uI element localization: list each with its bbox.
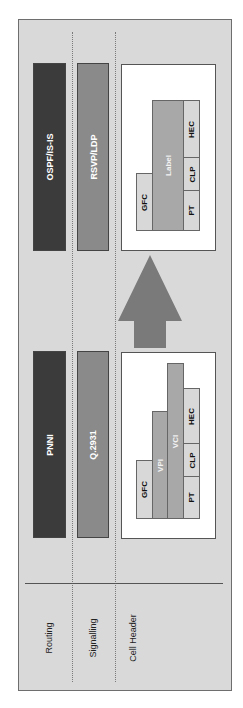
- up-arrow-icon: [116, 252, 186, 350]
- atm-field-pt: PT: [183, 476, 200, 519]
- column-divider-routing-signalling: [72, 32, 73, 682]
- atm-field-gfc: GFC: [136, 460, 153, 519]
- row-label-signalling: Signalling: [76, 590, 110, 685]
- row-label-routing: Routing: [33, 590, 65, 685]
- mpls-field-pt: PT: [183, 190, 200, 231]
- label-separator: [25, 583, 223, 584]
- row-label-cell-header: Cell Header: [118, 590, 148, 685]
- atm-field-vpi: VPI: [152, 411, 168, 519]
- atm-routing-bar: PNNI: [33, 351, 66, 538]
- mpls-field-clp: CLP: [183, 157, 200, 191]
- mpls-field-hec: HEC: [183, 100, 200, 158]
- atm-field-hec: HEC: [183, 388, 200, 444]
- atm-field-clp: CLP: [183, 443, 200, 477]
- mpls-field-gfc: GFC: [136, 173, 153, 231]
- atm-signalling-bar: Q.2931: [77, 351, 109, 538]
- mpls-field-label: Label: [152, 100, 184, 231]
- mpls-signalling-bar: RSVP/LDP: [77, 63, 109, 251]
- mpls-routing-bar: OSPF/IS-IS: [33, 63, 66, 251]
- column-divider-signalling-cellheader: [115, 32, 116, 682]
- atm-field-vci: VCI: [167, 363, 184, 519]
